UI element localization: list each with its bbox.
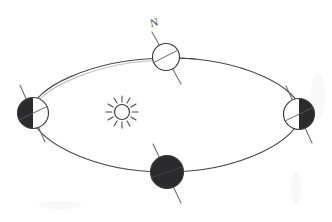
- earth-bottom: [150, 144, 185, 203]
- earth-top-globe: [153, 44, 180, 71]
- sun-symbol: [106, 96, 138, 128]
- earth-top-orbit-tangent: [180, 58, 196, 59]
- orbit-ellipse: [31, 58, 301, 172]
- diagram-canvas: N: [0, 0, 332, 222]
- earth-left: [12, 85, 50, 142]
- paper-smudges: [38, 74, 325, 209]
- sun-disc: [115, 105, 130, 120]
- north-pole-label: N: [149, 16, 159, 29]
- earth-top: N: [149, 16, 196, 84]
- seasons-diagram-figure: N: [0, 0, 332, 222]
